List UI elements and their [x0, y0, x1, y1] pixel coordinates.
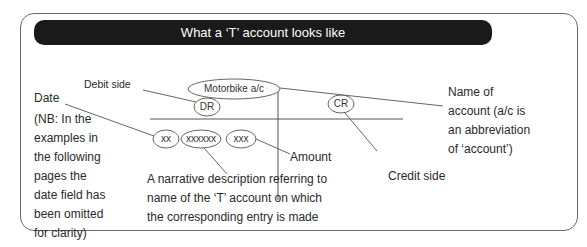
account-name: Motorbike a/c: [188, 83, 280, 94]
date-note: (NB: In theexamples inthe followingpages…: [34, 110, 105, 243]
debit-side-label: Debit side: [84, 78, 131, 90]
debit-abbr: DR: [194, 101, 220, 112]
name-of-account-note: Name ofaccount (a/c isan abbreviationof …: [448, 83, 530, 159]
entry-amount: xxx: [226, 133, 256, 144]
credit-abbr: CR: [328, 98, 354, 109]
entry-narrative: xxxxxx: [181, 133, 221, 144]
amount-leader: [256, 139, 290, 154]
entry-date: xx: [153, 133, 179, 144]
amount-label: Amount: [290, 150, 331, 164]
name-leader: [280, 88, 443, 106]
date-label: Date: [34, 91, 59, 105]
narrative-note: A narrative description referring toname…: [147, 170, 327, 227]
credit-side-label: Credit side: [388, 169, 445, 183]
